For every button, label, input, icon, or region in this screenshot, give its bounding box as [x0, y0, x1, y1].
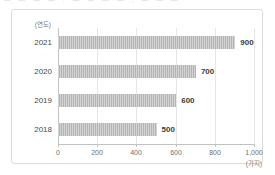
x-tick-mark-800 [215, 144, 216, 147]
x-tick-mark-200 [97, 144, 98, 147]
x-tick-mark-1000 [254, 144, 255, 147]
x-tick-label-600: 600 [170, 149, 182, 156]
x-tick-mark-0 [58, 144, 59, 147]
y-axis-unit-label: (연도) [35, 19, 51, 29]
y-category-label-2020: 2020 [34, 65, 52, 78]
plot-area: (연도) 2021 900 2020 700 2019 600 2018 500 [58, 28, 255, 144]
bar-value-label-2021: 900 [235, 36, 253, 49]
bar-value-label-2018: 500 [157, 123, 175, 136]
x-axis-line [58, 144, 255, 145]
y-category-label-2018: 2018 [34, 123, 52, 136]
bar-value-label-2019: 600 [176, 94, 194, 107]
bar-2021[interactable] [58, 36, 235, 49]
chart-figure: (연도) 2021 900 2020 700 2019 600 2018 500 [11, 9, 263, 164]
x-tick-label-400: 400 [130, 149, 142, 156]
bar-row: 2019 600 [58, 86, 255, 115]
y-category-label-2019: 2019 [34, 94, 52, 107]
x-tick-label-200: 200 [91, 149, 103, 156]
y-category-label-2021: 2021 [34, 36, 52, 49]
x-tick-mark-400 [136, 144, 137, 147]
x-axis-unit-label: (가지) [246, 158, 262, 168]
bar-row: 2020 700 [58, 57, 255, 86]
x-tick-label-1000: 1,000 [245, 149, 263, 156]
x-tick-label-0: 0 [56, 149, 60, 156]
bar-row: 2018 500 [58, 115, 255, 144]
x-tick-label-800: 800 [209, 149, 221, 156]
clipped-header-text: — — — — , — — — — , — — — [4, 0, 272, 3]
bar-2020[interactable] [58, 65, 196, 78]
x-tick-mark-600 [176, 144, 177, 147]
bar-value-label-2020: 700 [196, 65, 214, 78]
clipped-header-text-strip: — — — — , — — — — , — — — [0, 0, 275, 7]
bar-2019[interactable] [58, 94, 176, 107]
bar-2018[interactable] [58, 123, 157, 136]
bar-row: 2021 900 [58, 28, 255, 57]
